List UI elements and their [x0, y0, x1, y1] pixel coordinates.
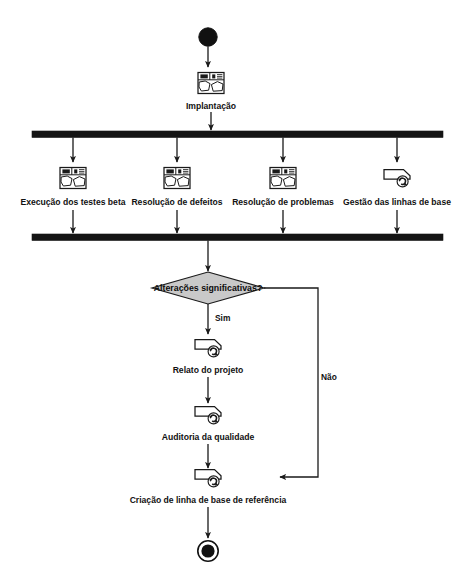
activity-diagram-canvas: Implantação Execução dos testes beta Res… — [0, 0, 468, 584]
package-process-icon — [60, 168, 86, 189]
guard-label-sim: Sim — [215, 313, 230, 323]
activity-branch-4-label: Gestão das linhas de base — [343, 197, 451, 207]
activity-execucao-testes-beta[interactable]: Execução dos testes beta — [20, 168, 125, 208]
activity-relato-do-projeto[interactable]: Relato do projeto — [173, 340, 244, 376]
package-process-icon — [164, 168, 190, 189]
activity-relato-label: Relato do projeto — [173, 365, 244, 375]
decision-alteracoes-significativas[interactable]: Alterações significativas? — [152, 272, 264, 304]
activity-auditoria-label: Auditoria da qualidade — [162, 432, 255, 442]
join-bar — [32, 234, 443, 241]
flow-decision-no — [264, 288, 318, 477]
cycle-process-icon — [195, 470, 221, 487]
activity-implantacao[interactable]: Implantação — [186, 73, 236, 112]
cycle-process-icon — [384, 170, 410, 187]
activity-criacao-label: Criação de linha de base de referência — [130, 495, 287, 505]
activity-branch-2-label: Resolução de defeitos — [131, 197, 222, 207]
decision-label: Alterações significativas? — [154, 283, 263, 293]
package-process-icon — [270, 168, 296, 189]
cycle-process-icon — [195, 407, 221, 424]
activity-auditoria-da-qualidade[interactable]: Auditoria da qualidade — [162, 407, 255, 443]
activity-criacao-linha-base[interactable]: Criação de linha de base de referência — [130, 470, 287, 506]
activity-resolucao-problemas[interactable]: Resolução de problemas — [232, 168, 334, 208]
guard-label-nao: Não — [321, 372, 337, 382]
activity-branch-1-label: Execução dos testes beta — [20, 197, 125, 207]
initial-node — [199, 28, 217, 46]
activity-resolucao-defeitos[interactable]: Resolução de defeitos — [131, 168, 222, 208]
cycle-process-icon — [195, 340, 221, 357]
package-process-icon — [198, 73, 224, 94]
activity-branch-3-label: Resolução de problemas — [232, 197, 334, 207]
uml-activity-diagram: Implantação Execução dos testes beta Res… — [0, 0, 468, 584]
fork-bar — [32, 131, 443, 138]
activity-implantacao-label: Implantação — [186, 101, 236, 111]
final-node — [198, 541, 218, 561]
activity-gestao-linhas-base[interactable]: Gestão das linhas de base — [343, 170, 451, 208]
